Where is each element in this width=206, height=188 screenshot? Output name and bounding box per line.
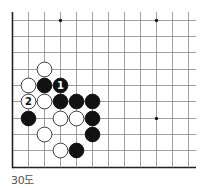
white-stone xyxy=(37,62,52,77)
white-stone xyxy=(53,111,68,126)
white-stone xyxy=(69,111,84,126)
star-point-icon xyxy=(155,117,158,120)
diagram-caption: 30도 xyxy=(11,171,34,187)
white-stone xyxy=(21,78,36,93)
star-point-icon xyxy=(59,19,62,22)
go-board: 12 xyxy=(0,0,206,170)
black-stone xyxy=(69,143,84,158)
black-stone xyxy=(37,78,52,93)
black-stone: 1 xyxy=(53,78,68,93)
black-stone xyxy=(85,111,100,126)
black-stone xyxy=(85,127,100,142)
move-number-label: 2 xyxy=(25,96,32,107)
star-point-icon xyxy=(155,19,158,22)
move-number-label: 1 xyxy=(57,80,64,91)
black-stone xyxy=(85,94,100,109)
white-stone xyxy=(53,143,68,158)
white-stone: 2 xyxy=(21,94,36,109)
black-stone xyxy=(21,111,36,126)
black-stone xyxy=(69,94,84,109)
white-stone xyxy=(37,127,52,142)
black-stone xyxy=(53,94,68,109)
white-stone xyxy=(37,94,52,109)
